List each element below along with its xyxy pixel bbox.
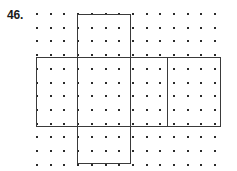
band-right-edge bbox=[220, 57, 221, 127]
bottom-flap-right-edge bbox=[130, 126, 131, 164]
worksheet-page: 46. bbox=[0, 0, 237, 171]
band-divider-2 bbox=[130, 57, 131, 127]
net-outline bbox=[0, 0, 237, 171]
bottom-flap-left-edge bbox=[77, 126, 78, 164]
bottom-flap-bottom-edge bbox=[77, 163, 131, 164]
band-divider-1 bbox=[77, 57, 78, 127]
top-flap-left-edge bbox=[77, 14, 78, 57]
band-left-edge bbox=[36, 57, 37, 127]
band-top-edge bbox=[36, 57, 221, 58]
top-flap-top-edge bbox=[77, 14, 131, 15]
band-bottom-edge bbox=[36, 126, 221, 127]
top-flap-right-edge bbox=[130, 14, 131, 57]
band-divider-3 bbox=[167, 57, 168, 127]
net-figure bbox=[0, 0, 237, 171]
